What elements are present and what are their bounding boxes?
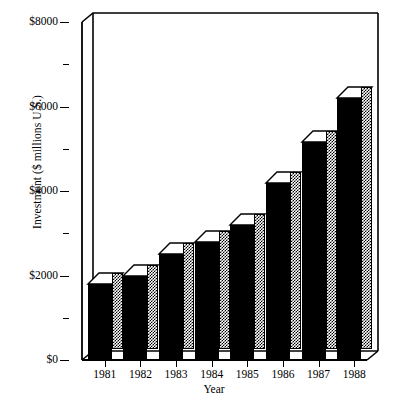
bar-front-face [337, 98, 361, 360]
plot-area [82, 22, 378, 360]
bar-side-face [219, 231, 230, 349]
bar-chart: Investment ($ millions U.S.) $0$2000$400… [0, 0, 396, 397]
y-axis-tick-major [60, 191, 69, 192]
y-axis-tick-major [60, 22, 69, 23]
bar-top-face [159, 243, 183, 254]
bar-1983[interactable] [159, 22, 183, 360]
y-axis-tick-label: $4000 [29, 185, 58, 196]
bar-front-face [123, 276, 147, 361]
bar-top-face [195, 231, 219, 242]
bar-side-face [361, 87, 372, 349]
bar-top-face [302, 131, 326, 142]
bar-1985[interactable] [230, 22, 254, 360]
bar-side-face [147, 265, 158, 350]
bar-front-face [88, 284, 112, 360]
x-axis-tick-label: 1982 [129, 368, 152, 380]
bar-side-face [183, 243, 194, 349]
x-axis-tick [247, 360, 248, 367]
x-axis-tick [176, 360, 177, 367]
x-axis-tick-label: 1984 [200, 368, 223, 380]
x-axis-tick [140, 360, 141, 367]
bar-front-face [266, 183, 290, 360]
x-axis-tick [283, 360, 284, 367]
y-axis-tick-minor [63, 233, 69, 234]
x-axis-tick [105, 360, 106, 367]
bar-top-face [88, 273, 112, 284]
y-axis-tick-labels: $0$2000$4000$6000$8000 [0, 0, 58, 397]
bar-side-face [254, 214, 265, 349]
bar-1984[interactable] [195, 22, 219, 360]
y-axis-tick-minor [63, 64, 69, 65]
bar-1986[interactable] [266, 22, 290, 360]
x-axis-tick [354, 360, 355, 367]
bar-1988[interactable] [337, 22, 361, 360]
bar-1982[interactable] [123, 22, 147, 360]
bar-top-face [123, 265, 147, 276]
bar-front-face [195, 242, 219, 360]
x-axis-tick-label: 1985 [236, 368, 259, 380]
y-axis-tick-major [60, 107, 69, 108]
x-axis-title-label: Year [203, 383, 224, 395]
bar-front-face [302, 142, 326, 360]
bar-side-face [112, 273, 123, 349]
y-axis-tick-label: $2000 [29, 270, 58, 281]
bar-front-face [159, 254, 183, 360]
y-axis-tick-minor [63, 318, 69, 319]
x-axis-tick-label: 1986 [271, 368, 294, 380]
bar-top-face [230, 214, 254, 225]
y-axis-tick-label: $8000 [29, 16, 58, 27]
bar-side-face [290, 172, 301, 349]
y-axis-tick-label: $6000 [29, 101, 58, 112]
y-axis-tick-major [60, 276, 69, 277]
x-axis-tick [319, 360, 320, 367]
x-axis-tick-label: 1987 [307, 368, 330, 380]
bar-1987[interactable] [302, 22, 326, 360]
bar-top-face [266, 172, 290, 183]
x-axis-title: Year [0, 383, 396, 395]
bar-top-face [337, 87, 361, 98]
x-axis-tick-label: 1988 [343, 368, 366, 380]
x-axis-tick [212, 360, 213, 367]
y-axis-tick-major [60, 360, 69, 361]
bar-front-face [230, 225, 254, 360]
x-axis-tick-label: 1981 [93, 368, 116, 380]
x-axis-tick-labels: 19811982198319841985198619871988 [0, 368, 396, 384]
y-axis-tick-label: $0 [47, 354, 59, 365]
bar-1981[interactable] [88, 22, 112, 360]
bar-side-face [326, 131, 337, 349]
y-axis-tick-minor [63, 149, 69, 150]
x-axis-tick-label: 1983 [165, 368, 188, 380]
